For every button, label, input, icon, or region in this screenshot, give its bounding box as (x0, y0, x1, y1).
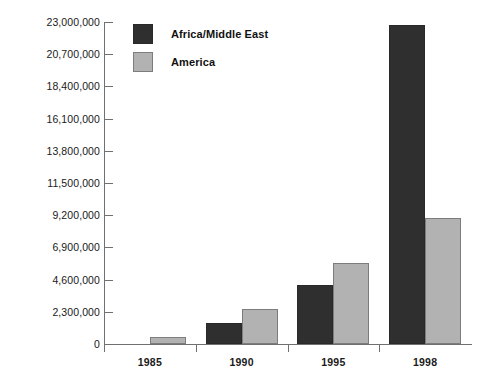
y-axis-label-wrap: 18,400,000 (0, 81, 100, 92)
legend-swatch-icon (133, 52, 153, 72)
bar-1990-africa-middle-east (206, 323, 242, 344)
x-axis-label: 1995 (298, 356, 368, 368)
y-axis-label: 20,700,000 (8, 49, 100, 60)
x-axis-label: 1990 (207, 356, 277, 368)
y-axis-label: 16,100,000 (8, 114, 100, 125)
y-axis-label-wrap: 2,300,000 (0, 307, 100, 318)
y-axis-label: 23,000,000 (8, 17, 100, 28)
y-axis-label: 9,200,000 (8, 210, 100, 221)
x-axis-tick (288, 344, 289, 352)
bar-1985-america (150, 337, 186, 344)
y-axis-tick (104, 344, 113, 345)
legend-item: America (133, 50, 268, 74)
x-axis-label: 1998 (390, 356, 460, 368)
x-axis-label: 1985 (115, 356, 185, 368)
y-axis-label-wrap: 0 (0, 339, 100, 350)
x-axis-tick (196, 344, 197, 352)
legend-label: Africa/Middle East (171, 29, 268, 40)
bar-chart: 02,300,0004,600,0006,900,0009,200,00011,… (0, 0, 501, 386)
y-axis-label: 4,600,000 (8, 275, 100, 286)
legend-label: America (171, 57, 215, 68)
x-axis-tick (104, 344, 105, 352)
x-axis-tick (379, 344, 380, 352)
y-axis-label: 2,300,000 (8, 307, 100, 318)
y-axis-label: 0 (8, 339, 100, 350)
y-axis-label-wrap: 23,000,000 (0, 17, 100, 28)
bar-1995-africa-middle-east (297, 285, 333, 344)
bar-1990-america (242, 309, 278, 344)
y-axis-label-wrap: 6,900,000 (0, 242, 100, 253)
y-axis-label: 6,900,000 (8, 242, 100, 253)
legend-swatch-icon (133, 24, 153, 44)
y-axis-label-wrap: 11,500,000 (0, 178, 100, 189)
y-axis-label: 18,400,000 (8, 81, 100, 92)
y-axis-label: 13,800,000 (8, 146, 100, 157)
y-axis-label-wrap: 4,600,000 (0, 275, 100, 286)
y-axis-label-wrap: 13,800,000 (0, 146, 100, 157)
y-axis-label-wrap: 20,700,000 (0, 49, 100, 60)
bar-1998-africa-middle-east (389, 25, 425, 344)
y-axis-label-wrap: 16,100,000 (0, 114, 100, 125)
legend-item: Africa/Middle East (133, 22, 268, 46)
chart-legend: Africa/Middle EastAmerica (133, 22, 268, 78)
y-axis-label-wrap: 9,200,000 (0, 210, 100, 221)
bar-1998-america (425, 218, 461, 344)
bar-1995-america (333, 263, 369, 344)
y-axis-label: 11,500,000 (8, 178, 100, 189)
